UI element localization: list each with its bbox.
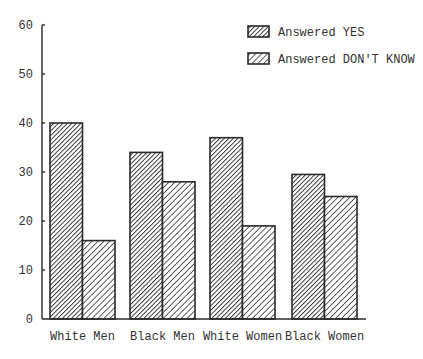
bar-dont-know (325, 197, 358, 320)
bar-group-black-men (130, 152, 195, 319)
bar-group-black-women (292, 174, 357, 319)
y-tick-label: 30 (19, 166, 33, 180)
x-category-label: White Men (50, 330, 115, 344)
y-axis: 0102030405060 (19, 19, 45, 327)
x-category-label: White Women (203, 330, 282, 344)
bar-yes (210, 138, 243, 319)
legend-swatch (248, 26, 269, 37)
bars (50, 123, 357, 319)
legend-swatch (248, 53, 269, 64)
x-axis: White MenBlack MenWhite WomenBlack Women (42, 319, 366, 344)
y-tick-label: 60 (19, 19, 33, 33)
x-category-label: Black Men (130, 330, 195, 344)
bar-group-white-men (50, 123, 115, 319)
bar-dont-know (83, 241, 116, 319)
bar-chart: 0102030405060 White MenBlack MenWhite Wo… (0, 0, 423, 359)
legend-label: Answered YES (278, 26, 364, 40)
bar-group-white-women (210, 138, 275, 319)
y-tick-label: 10 (19, 264, 33, 278)
legend-item-dont-know: Answered DON'T KNOW (248, 53, 416, 67)
bar-yes (292, 174, 325, 319)
bar-yes (50, 123, 83, 319)
bar-dont-know (163, 182, 196, 319)
bar-dont-know (243, 226, 276, 319)
y-tick-label: 20 (19, 215, 33, 229)
y-tick-label: 40 (19, 117, 33, 131)
legend-item-yes: Answered YES (248, 26, 364, 40)
legend: Answered YESAnswered DON'T KNOW (248, 26, 416, 67)
x-category-label: Black Women (285, 330, 364, 344)
legend-label: Answered DON'T KNOW (278, 53, 416, 67)
y-tick-label: 50 (19, 68, 33, 82)
y-tick-label: 0 (26, 313, 33, 327)
bar-yes (130, 152, 163, 319)
